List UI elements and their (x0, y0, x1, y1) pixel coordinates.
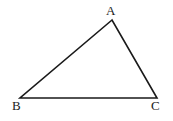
triangle-diagram: A B C (0, 0, 173, 121)
triangle-outline (20, 20, 157, 98)
vertex-label-b: B (12, 99, 21, 112)
vertex-label-c: C (151, 99, 160, 112)
triangle-figure (0, 0, 173, 121)
vertex-label-a: A (106, 4, 115, 17)
